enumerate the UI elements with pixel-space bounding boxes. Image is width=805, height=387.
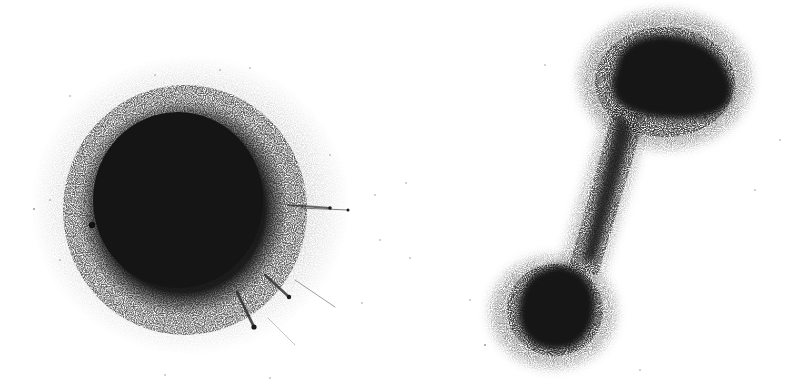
dumbbell-graph-right — [400, 0, 805, 387]
network-panel-right — [400, 0, 805, 387]
network-panel-left — [0, 0, 400, 387]
dense-core-inner — [93, 112, 263, 288]
outlier-node — [89, 222, 95, 228]
hairball-graph-left — [0, 0, 400, 387]
